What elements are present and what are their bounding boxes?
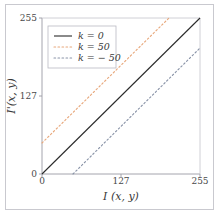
legend-label-k-negative-50: k = − 50 (78, 52, 121, 63)
legend-label-k-zero: k = 0 (78, 30, 104, 41)
xtick-label-255: 255 (191, 176, 208, 186)
legend-label-k-positive-50: k = 50 (78, 41, 110, 52)
ytick-label-127: 127 (20, 91, 37, 101)
ytick-label-0: 0 (31, 169, 37, 179)
chart-canvas: 0 127 255 0 127 255 I (x, y) I'(x, y) k … (0, 0, 219, 218)
y-axis-title: I'(x, y) (5, 78, 18, 114)
legend: k = 0 k = 50 k = − 50 (48, 26, 121, 68)
figure-container: 0 127 255 0 127 255 I (x, y) I'(x, y) k … (0, 0, 219, 218)
x-axis-title: I (x, y) (102, 190, 139, 203)
xtick-label-127: 127 (112, 176, 129, 186)
ytick-label-255: 255 (20, 13, 37, 23)
xtick-label-0: 0 (39, 176, 45, 186)
